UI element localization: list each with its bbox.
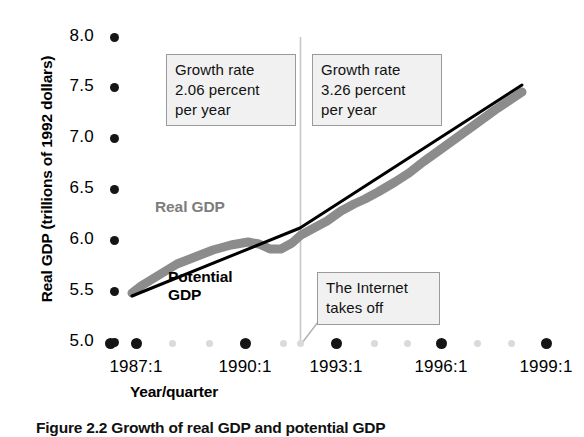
x-dot-minor-1991-1: [280, 340, 287, 347]
series-label-real-gdp: Real GDP: [155, 198, 225, 216]
x-tick-label-1996: 1996:1: [396, 357, 486, 377]
x-dot-major-1993-1: [331, 338, 342, 349]
internet-callout-leader: [302, 322, 318, 343]
x-tick-label-1993: 1993:1: [291, 357, 381, 377]
x-dot-major-1990-1: [240, 338, 251, 349]
x-dot-minor-1995-1: [404, 340, 411, 347]
figure-caption: Figure 2.2 Growth of real GDP and potent…: [36, 419, 385, 437]
x-dot-minor-1998-1: [508, 340, 515, 347]
x-dot-minor-1989-1: [206, 340, 213, 347]
x-dot-major-1999-1: [541, 338, 552, 349]
x-tick-label-1987: 1987:1: [91, 357, 181, 377]
x-dot-major-1986-3: [105, 338, 116, 349]
x-dot-minor-1994-1: [371, 340, 378, 347]
x-tick-label-1999: 1999:1: [501, 357, 584, 377]
x-axis-title: Year/quarter: [130, 383, 218, 401]
callout-growth-rate-left: Growth rate 2.06 percent per year: [166, 54, 296, 126]
x-dot-major-1996-1: [436, 338, 447, 349]
x-tick-label-1990: 1990:1: [200, 357, 290, 377]
callout-internet-takes-off: The Internet takes off: [317, 272, 440, 325]
series-label-potential-gdp: Potential GDP: [168, 268, 254, 304]
callout-growth-rate-right: Growth rate 3.26 percent per year: [312, 54, 442, 126]
x-dot-minor-1997-1: [474, 340, 481, 347]
x-dot-minor-1992-1: [297, 340, 304, 347]
x-dot-major-1987-1: [131, 338, 142, 349]
x-dot-minor-1988-1: [169, 340, 176, 347]
